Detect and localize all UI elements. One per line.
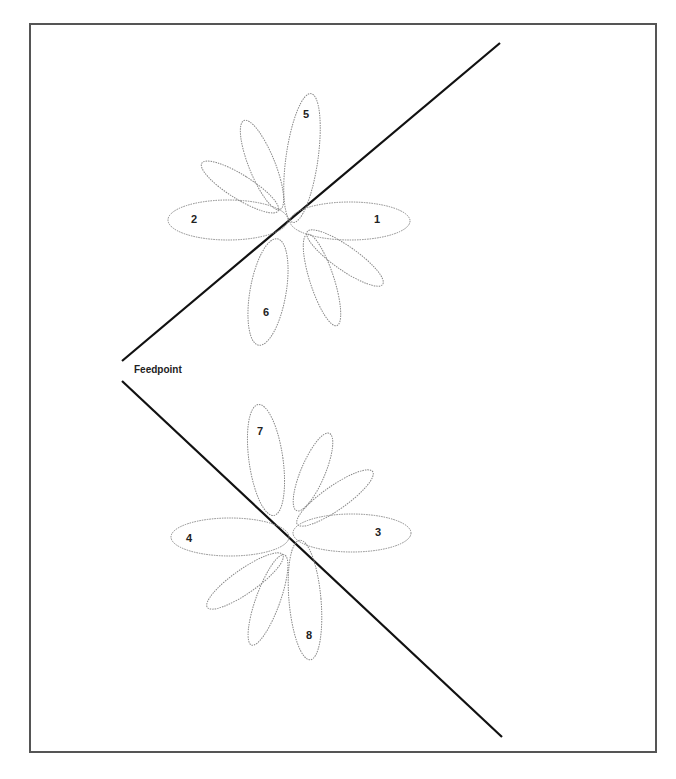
- lobe-3: [293, 514, 411, 552]
- lobe-label-7: 7: [257, 425, 263, 437]
- lower-wire: [122, 381, 502, 737]
- lobe-label-8: 8: [306, 629, 312, 641]
- feedpoint-label: Feedpoint: [134, 364, 182, 375]
- lobe-lower-minor-a: [286, 429, 341, 516]
- lobe-6: [241, 236, 295, 349]
- lobe-upper-minor-a: [232, 116, 292, 215]
- lobe-label-4: 4: [186, 532, 192, 544]
- lobe-lower-minor-b: [290, 462, 379, 534]
- lobe-upper-minor-c: [296, 231, 348, 330]
- lobe-lower-minor-d: [240, 551, 295, 649]
- lobe-upper-minor-d: [300, 222, 389, 294]
- lobe-upper-minor-b: [195, 153, 284, 221]
- lobe-label-2: 2: [191, 213, 197, 225]
- upper-wire: [122, 43, 500, 361]
- lobe-2: [168, 200, 288, 240]
- antenna-diagram: [0, 0, 676, 779]
- lobe-label-6: 6: [263, 306, 269, 318]
- lobe-8: [284, 539, 326, 661]
- lobe-label-1: 1: [374, 213, 380, 225]
- lobe-label-5: 5: [303, 108, 309, 120]
- lobe-label-3: 3: [375, 526, 381, 538]
